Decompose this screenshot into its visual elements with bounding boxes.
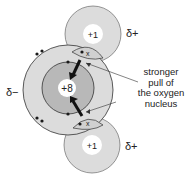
oxygen-nucleus-label: +8 <box>61 83 73 94</box>
electron-dot <box>78 122 81 125</box>
lone-pair-electron <box>35 52 38 55</box>
hydrogen-bottom-nucleus-label: +1 <box>87 141 97 151</box>
annotation-line: nucleus <box>132 99 190 110</box>
partial-charge-top: δ+ <box>126 27 139 39</box>
annotation-line: the oxygen <box>132 88 190 99</box>
annotation-line: stronger <box>132 67 190 78</box>
annotation-text: stronger pull of the oxygen nucleus <box>132 67 190 109</box>
hydrogen-top-nucleus-label: +1 <box>88 30 98 40</box>
inner-electron <box>66 60 69 63</box>
lone-pair-electron <box>40 49 43 52</box>
partial-charge-bottom: δ+ <box>125 140 138 152</box>
electron-dot <box>80 50 83 53</box>
lone-pair-electron <box>35 116 38 119</box>
electron-cross: x <box>86 120 90 127</box>
inner-electron <box>66 112 69 115</box>
partial-charge-oxygen: δ− <box>6 86 19 98</box>
lone-pair-electron <box>40 119 43 122</box>
electron-cross: x <box>86 50 90 57</box>
